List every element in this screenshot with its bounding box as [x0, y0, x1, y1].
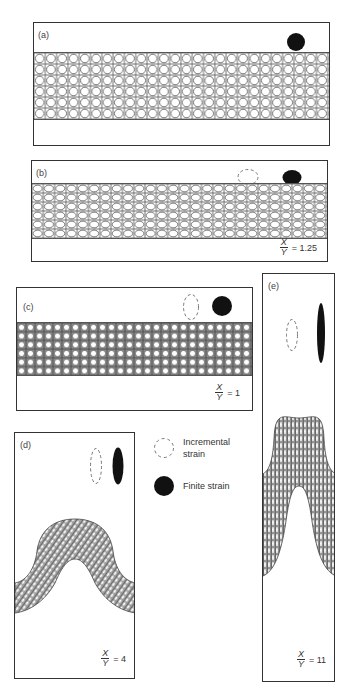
- circle-grid: [34, 53, 330, 119]
- fold-structure: [263, 274, 335, 682]
- layer-band: [17, 322, 252, 376]
- panel-d: (d) X Y = 4: [14, 432, 135, 679]
- legend-label-finite: Finite strain: [183, 481, 230, 491]
- panel-label: (c): [23, 302, 34, 312]
- panel-c: (c) X Y = 1: [16, 287, 253, 411]
- ratio-fraction: X Y: [297, 650, 305, 669]
- finite-strain-circle-icon: [286, 32, 306, 52]
- incremental-strain-legend-icon: [153, 437, 175, 459]
- panel-e: (e) X Y = 11: [262, 273, 335, 682]
- layer-band: [34, 52, 329, 120]
- legend-item-finite: Finite strain: [153, 475, 230, 497]
- strain-ratio: X Y = 1: [215, 383, 240, 402]
- strain-ratio: X Y = 1.25: [280, 238, 317, 257]
- finite-strain-legend-icon: [153, 475, 175, 497]
- legend-label-incremental: Incremental strain: [183, 436, 230, 460]
- layer-band: [32, 183, 327, 239]
- strain-ratio: X Y = 11: [297, 650, 326, 669]
- ratio-value: = 11: [309, 655, 326, 665]
- ratio-fraction: X Y: [280, 238, 288, 257]
- ratio-fraction: X Y: [215, 383, 223, 402]
- ellipse-grid: [32, 184, 328, 238]
- panel-b: (b) X Y = 1.25: [31, 160, 328, 262]
- ratio-value: = 4: [113, 654, 126, 664]
- panel-label: (b): [36, 168, 47, 178]
- ratio-value: = 1: [227, 388, 240, 398]
- circle-grid: [17, 323, 253, 375]
- ratio-fraction: X Y: [101, 649, 109, 668]
- ratio-value: = 1.25: [292, 243, 317, 253]
- fold-structure: [15, 433, 135, 679]
- incremental-strain-ellipse-icon: [182, 293, 200, 321]
- panel-a: (a): [33, 22, 330, 146]
- legend-item-incremental: Incremental strain: [153, 436, 230, 460]
- strain-ratio: X Y = 4: [101, 649, 126, 668]
- panel-label: (a): [38, 30, 49, 40]
- finite-strain-circle-icon: [211, 295, 233, 317]
